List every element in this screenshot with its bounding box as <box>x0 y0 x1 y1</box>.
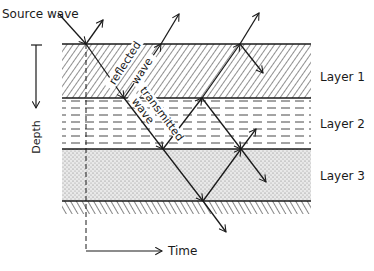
layer-3-label: Layer 3 <box>320 169 365 183</box>
layer-1 <box>62 44 311 98</box>
time-label: Time <box>167 244 197 258</box>
layer-1-label: Layer 1 <box>320 70 365 84</box>
bottom-substrate <box>62 201 311 214</box>
source-wave-label: Source wave <box>2 7 79 21</box>
depth-label: Depth <box>30 120 43 154</box>
layer-2 <box>62 98 311 149</box>
layer-3 <box>62 149 311 201</box>
layer-2-label: Layer 2 <box>320 117 365 131</box>
depth-axis <box>31 45 42 108</box>
seismic-wave-diagram: Source wave reflected wave transmitted w… <box>0 0 374 271</box>
